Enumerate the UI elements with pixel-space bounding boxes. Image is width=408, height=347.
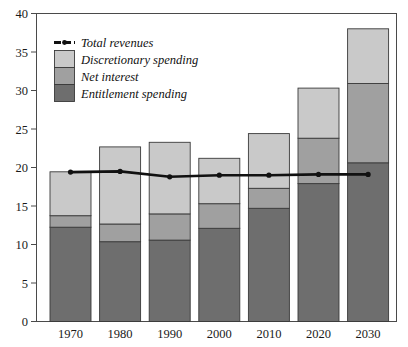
bar-segment-entitlement xyxy=(100,242,141,322)
bar-segment-net-interest xyxy=(149,214,190,240)
bar-segment-discretionary xyxy=(199,158,240,203)
bar-group-2010 xyxy=(248,134,289,322)
y-tick-label: 0 xyxy=(22,315,28,329)
legend-swatch-net-interest xyxy=(55,68,75,85)
y-tick-label: 20 xyxy=(16,161,29,175)
bar-segment-entitlement xyxy=(199,228,240,321)
revenue-marker xyxy=(366,172,371,177)
x-tick-label: 2030 xyxy=(356,327,381,341)
bar-segment-discretionary xyxy=(100,147,141,224)
legend-swatch-entitlement xyxy=(55,85,75,102)
bar-segment-net-interest xyxy=(199,204,240,229)
bar-segment-net-interest xyxy=(100,224,141,242)
y-tick-label: 30 xyxy=(16,84,29,98)
revenue-marker xyxy=(316,172,321,177)
y-tick-label: 15 xyxy=(16,200,29,214)
x-tick-label: 1990 xyxy=(157,327,182,341)
x-tick-label: 1980 xyxy=(108,327,133,341)
y-tick-label: 5 xyxy=(22,277,28,291)
bar-group-1990 xyxy=(149,142,190,321)
revenue-marker xyxy=(118,169,123,174)
bar-segment-net-interest xyxy=(50,216,91,228)
legend-label: Discretionary spending xyxy=(80,53,198,67)
legend-item-entitlement-spending: Entitlement spending xyxy=(55,85,187,102)
bar-segment-discretionary xyxy=(50,172,91,216)
x-tick-label: 2000 xyxy=(207,327,232,341)
y-tick-label: 35 xyxy=(16,46,29,60)
legend-label: Net interest xyxy=(80,70,139,84)
bar-segment-entitlement xyxy=(50,227,91,321)
legend-item-net-interest: Net interest xyxy=(55,68,140,85)
bar-segment-discretionary xyxy=(298,88,339,138)
bar-segment-net-interest xyxy=(248,188,289,208)
bar-segment-discretionary xyxy=(348,29,389,84)
bar-segment-discretionary xyxy=(248,134,289,189)
bar-segment-entitlement xyxy=(248,208,289,321)
y-tick-label: 40 xyxy=(16,7,29,21)
revenue-marker xyxy=(217,173,222,178)
bar-segment-entitlement xyxy=(298,184,339,322)
bar-segment-entitlement xyxy=(348,163,389,322)
bar-segment-entitlement xyxy=(149,240,190,321)
bar-group-1970 xyxy=(50,172,91,322)
y-tick-label: 10 xyxy=(16,238,29,252)
revenue-marker xyxy=(68,170,73,175)
bar-group-2000 xyxy=(199,158,240,321)
stacked-bar-chart: 40 35 30 25 20 15 xyxy=(0,0,408,347)
y-tick-label: 25 xyxy=(16,123,29,137)
legend-point-marker xyxy=(62,40,67,45)
revenue-marker xyxy=(266,173,271,178)
chart-canvas: 40 35 30 25 20 15 xyxy=(0,0,408,347)
legend-label: Total revenues xyxy=(81,36,153,50)
revenue-marker xyxy=(167,174,172,179)
x-tick-label: 2010 xyxy=(256,327,281,341)
legend-swatch-discretionary xyxy=(55,51,75,68)
legend-label: Entitlement spending xyxy=(80,87,187,101)
x-tick-label: 1970 xyxy=(58,327,83,341)
bar-segment-net-interest xyxy=(348,84,389,163)
bar-group-2020 xyxy=(298,88,339,321)
x-tick-label: 2020 xyxy=(306,327,331,341)
